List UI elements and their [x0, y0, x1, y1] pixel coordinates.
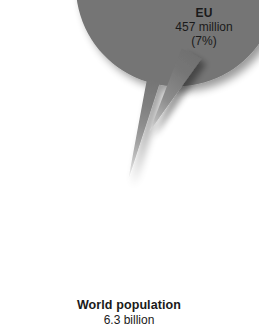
- pie-chart-figure: EU 457 million (7%) World population 6.3…: [0, 0, 259, 332]
- eu-callout-title: EU: [152, 6, 256, 20]
- world-population-caption: World population 6.3 billion: [19, 298, 239, 327]
- caption-value: 6.3 billion: [19, 313, 239, 327]
- caption-title: World population: [19, 298, 239, 313]
- eu-callout-value: 457 million: [152, 20, 256, 34]
- eu-callout-percent: (7%): [152, 34, 256, 48]
- eu-callout-label: EU 457 million (7%): [152, 6, 256, 48]
- pie-chart-graphic: [0, 0, 259, 332]
